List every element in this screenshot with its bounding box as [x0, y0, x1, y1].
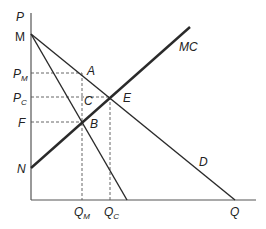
f-label: F [18, 116, 26, 130]
pc-label: PC [13, 91, 27, 107]
guide-lines [31, 73, 110, 200]
point-e-label: E [123, 91, 132, 105]
marginal-cost-curve [31, 27, 190, 168]
x-axis-label: Q [230, 205, 239, 219]
qc-label: QC [104, 205, 119, 221]
y-axis-label: P [16, 10, 24, 24]
point-m-label: M [15, 30, 25, 44]
point-b-label: B [90, 117, 98, 131]
marginal-revenue-curve [31, 34, 127, 200]
qm-label: QM [74, 205, 90, 221]
economics-diagram: P Q M PM PC F N A C E B MC D QM QC [0, 0, 266, 229]
pm-label: PM [13, 67, 28, 83]
point-n-label: N [17, 162, 26, 176]
mc-curve-label: MC [179, 40, 198, 54]
demand-curve [31, 34, 235, 200]
point-c-label: C [84, 94, 93, 108]
demand-curve-label: D [199, 155, 208, 169]
point-a-label: A [86, 64, 95, 78]
